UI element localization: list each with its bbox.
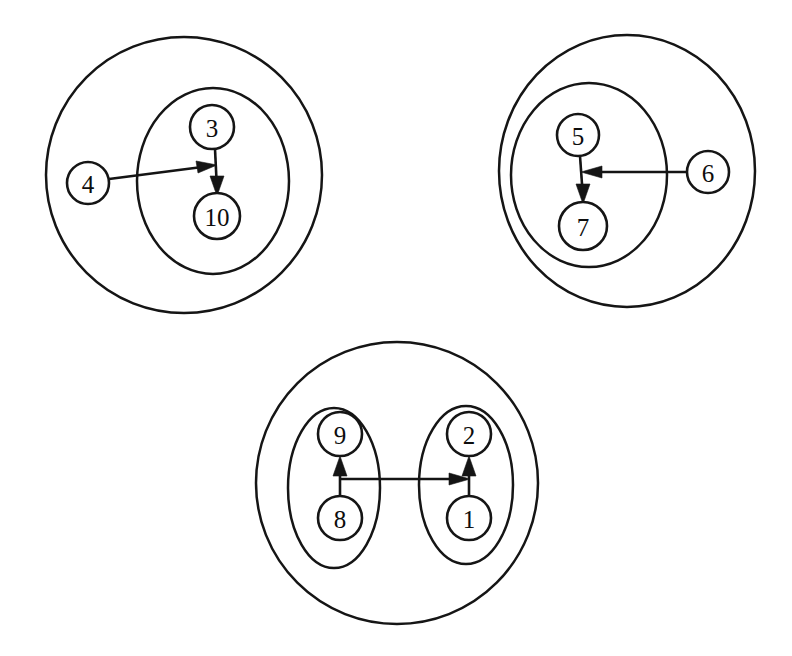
node-9-circle[interactable] xyxy=(318,412,362,456)
node-4-circle[interactable] xyxy=(67,162,109,204)
node-5-circle[interactable] xyxy=(557,114,599,156)
node-6[interactable]: 6 xyxy=(687,151,729,193)
group-bottom[interactable]: 9 8 2 1 xyxy=(256,342,538,624)
node-6-circle[interactable] xyxy=(687,151,729,193)
node-7[interactable]: 7 xyxy=(559,202,607,250)
node-8[interactable]: 8 xyxy=(318,496,362,540)
group-top-right[interactable]: 5 7 6 xyxy=(499,35,755,307)
node-10[interactable]: 10 xyxy=(194,193,240,239)
node-9[interactable]: 9 xyxy=(318,412,362,456)
group-top-left[interactable]: 3 10 4 xyxy=(46,37,322,313)
node-2-circle[interactable] xyxy=(447,412,491,456)
node-8-circle[interactable] xyxy=(318,496,362,540)
node-1-circle[interactable] xyxy=(447,496,491,540)
node-1[interactable]: 1 xyxy=(447,496,491,540)
node-3-circle[interactable] xyxy=(190,105,234,149)
node-4[interactable]: 4 xyxy=(67,162,109,204)
node-3[interactable]: 3 xyxy=(190,105,234,149)
diagram-canvas: 3 10 4 5 7 xyxy=(0,0,792,656)
node-10-circle[interactable] xyxy=(194,193,240,239)
node-7-circle[interactable] xyxy=(559,202,607,250)
node-5[interactable]: 5 xyxy=(557,114,599,156)
node-2[interactable]: 2 xyxy=(447,412,491,456)
